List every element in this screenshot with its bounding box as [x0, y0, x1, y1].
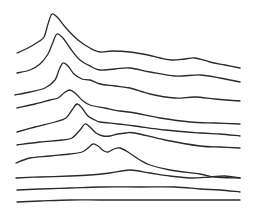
series-line-1	[17, 14, 240, 68]
series-line-10	[17, 200, 240, 202]
series-line-6	[17, 124, 240, 148]
waterfall-chart	[0, 0, 261, 220]
series-line-7	[16, 144, 240, 178]
series-line-9	[17, 187, 240, 192]
series-line-8	[16, 170, 240, 178]
series-line-2	[17, 34, 240, 82]
series-line-5	[17, 104, 240, 136]
series-line-3	[15, 63, 240, 101]
plot-area	[0, 0, 261, 220]
series-line-4	[17, 90, 240, 124]
